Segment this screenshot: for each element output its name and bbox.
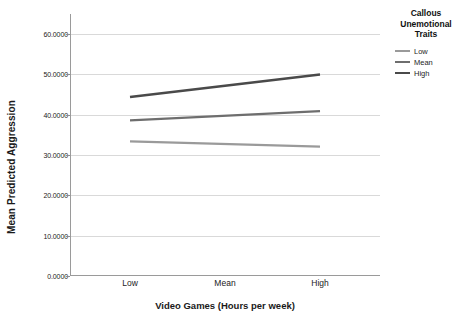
interaction-plot: Mean Predicted Aggression 0.000010.00002… [0,0,470,334]
x-tick-label: Mean [214,278,235,288]
legend-item-mean[interactable]: Mean [395,57,469,68]
x-tick-label: High [311,278,328,288]
y-tick-label: 50.0000 [43,71,68,78]
legend-swatch-icon [395,61,410,64]
legend-title-line-1: Callous [383,8,469,19]
x-tick-label: Low [122,278,138,288]
y-tick-label: 60.0000 [43,31,68,38]
legend-swatch-icon [395,50,410,53]
x-axis-tick-labels: LowMeanHigh [70,278,380,294]
legend-title-line-2: Unemotional [383,19,469,30]
legend-label: Mean [414,58,433,67]
legend-item-high[interactable]: High [395,68,469,79]
legend-label: Low [414,47,428,56]
legend-title: Callous Unemotional Traits [383,8,469,40]
legend-item-low[interactable]: Low [395,46,469,57]
y-tick-label: 10.0000 [43,232,68,239]
series-line-high [130,74,320,97]
y-tick-label: 0.0000 [47,273,68,280]
plot-area [70,14,380,276]
y-tick-label: 20.0000 [43,192,68,199]
series-line-low [130,141,320,146]
y-axis-tick-labels: 0.000010.000020.000030.000040.000050.000… [22,0,68,334]
y-axis-title: Mean Predicted Aggression [0,0,22,334]
y-tick-label: 30.0000 [43,152,68,159]
legend-label: High [414,69,429,78]
x-axis-title: Video Games (Hours per week) [70,300,380,311]
series-lines [70,14,380,276]
legend: Callous Unemotional Traits LowMeanHigh [383,8,469,79]
y-tick-mark [66,276,70,277]
legend-items: LowMeanHigh [383,46,469,79]
series-line-mean [130,111,320,120]
legend-swatch-icon [395,72,410,75]
legend-title-line-3: Traits [383,29,469,40]
y-tick-label: 40.0000 [43,111,68,118]
